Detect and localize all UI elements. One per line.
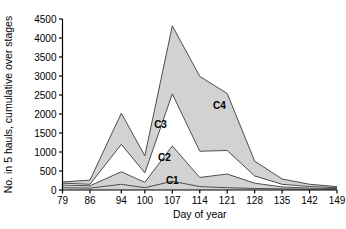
- x-axis-title: Day of year: [173, 208, 227, 220]
- plot-area: [63, 26, 338, 190]
- x-axis-tick-label: 114: [192, 195, 208, 206]
- y-axis-tick-label: 500: [40, 166, 57, 177]
- x-axis-tick-label: 86: [84, 195, 96, 206]
- y-axis-title: No. in 5 hauls, cumulative over stages: [2, 16, 14, 193]
- series-label-c1: C1: [166, 175, 179, 186]
- x-axis-tick-label: 107: [164, 195, 181, 206]
- y-axis-tick-label: 1500: [34, 128, 57, 139]
- x-axis-tick-label: 128: [246, 195, 263, 206]
- series-label-c3: C3: [154, 119, 167, 130]
- x-axis-tick-label: 149: [329, 195, 346, 206]
- y-axis-tick-label: 2000: [34, 109, 57, 120]
- x-axis-tick-label: 142: [301, 195, 318, 206]
- series-label-c4: C4: [213, 100, 226, 111]
- y-axis-tick-label: 3000: [34, 71, 57, 82]
- y-axis: 050010001500200025003000350040004500: [34, 14, 62, 196]
- y-axis-tick-label: 2500: [34, 90, 57, 101]
- y-axis-tick-label: 4000: [34, 33, 57, 44]
- y-axis-tick-label: 1000: [34, 147, 57, 158]
- y-axis-tick-label: 0: [51, 185, 57, 196]
- chart-container: 050010001500200025003000350040004500 798…: [0, 0, 346, 229]
- y-axis-tick-label: 4500: [34, 14, 57, 25]
- x-axis-tick-label: 121: [219, 195, 236, 206]
- area-series-group: [63, 26, 338, 190]
- stacked-area-chart: 050010001500200025003000350040004500 798…: [0, 0, 346, 229]
- series-label-c2: C2: [158, 152, 171, 163]
- x-axis-tick-label: 135: [274, 195, 291, 206]
- x-axis-tick-label: 100: [137, 195, 154, 206]
- x-axis-tick-label: 79: [57, 195, 69, 206]
- x-axis: 798694100107114121128135142149: [57, 190, 346, 206]
- y-axis-tick-label: 3500: [34, 52, 57, 63]
- x-axis-tick-label: 94: [116, 195, 128, 206]
